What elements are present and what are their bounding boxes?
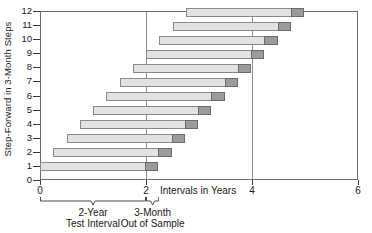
y-tick-label-3: 3	[4, 133, 32, 143]
bar-step-4	[80, 120, 199, 129]
x-tick-label-2: 2	[136, 185, 156, 197]
bar-step-5	[93, 106, 212, 115]
y-tick-1	[33, 166, 40, 167]
plot-area	[40, 11, 358, 180]
y-tick-label-6: 6	[4, 91, 32, 101]
y-tick-8	[33, 67, 40, 68]
bar-step-3	[67, 134, 186, 143]
y-tick-10	[33, 39, 40, 40]
y-tick-2	[33, 152, 40, 153]
y-tick-5	[33, 110, 40, 111]
bar-segment-out-of-sample	[278, 22, 291, 31]
annotation-out-of-sample-line1: 3-Month	[93, 207, 213, 219]
bar-segment-out-of-sample	[251, 50, 264, 59]
y-tick-label-8: 8	[4, 62, 32, 72]
x-tick-label-4: 4	[242, 185, 262, 197]
bar-segment-test-interval	[67, 134, 173, 143]
bar-segment-test-interval	[93, 106, 199, 115]
y-tick-label-0: 0	[4, 175, 32, 185]
bar-segment-out-of-sample	[145, 162, 158, 171]
y-tick-label-11: 11	[4, 20, 32, 30]
y-tick-12	[33, 11, 40, 12]
bar-segment-out-of-sample	[172, 134, 185, 143]
bar-step-11	[173, 22, 292, 31]
bar-step-10	[159, 36, 278, 45]
y-tick-label-5: 5	[4, 105, 32, 115]
bar-step-8	[133, 64, 252, 73]
y-tick-label-2: 2	[4, 147, 32, 157]
bar-step-9	[146, 50, 265, 59]
y-tick-label-12: 12	[4, 6, 32, 16]
bar-segment-test-interval	[173, 22, 279, 31]
bar-step-6	[106, 92, 225, 101]
y-tick-0	[33, 180, 40, 181]
y-tick-3	[33, 138, 40, 139]
step-forward-chart: Step-Forward in 3-Month Steps 0123456789…	[0, 0, 372, 233]
y-tick-label-10: 10	[4, 34, 32, 44]
y-tick-7	[33, 81, 40, 82]
y-tick-label-9: 9	[4, 48, 32, 58]
bar-segment-out-of-sample	[238, 64, 251, 73]
bar-segment-test-interval	[40, 162, 146, 171]
bar-segment-out-of-sample	[198, 106, 211, 115]
brace-test-interval	[40, 197, 146, 206]
y-tick-11	[33, 25, 40, 26]
y-tick-label-4: 4	[4, 119, 32, 129]
bar-segment-out-of-sample	[264, 36, 277, 45]
bar-segment-test-interval	[186, 8, 292, 17]
bar-segment-test-interval	[80, 120, 186, 129]
y-tick-label-1: 1	[4, 161, 32, 171]
bar-segment-out-of-sample	[211, 92, 224, 101]
x-axis-title: Intervals in Years	[160, 185, 236, 197]
bar-segment-test-interval	[106, 92, 212, 101]
y-tick-label-7: 7	[4, 76, 32, 86]
bar-step-7	[120, 78, 239, 87]
bar-segment-out-of-sample	[225, 78, 238, 87]
bar-segment-test-interval	[133, 64, 239, 73]
y-tick-4	[33, 124, 40, 125]
y-tick-6	[33, 96, 40, 97]
bar-segment-out-of-sample	[185, 120, 198, 129]
bar-step-12	[186, 8, 305, 17]
bar-step-2	[53, 148, 172, 157]
bar-segment-test-interval	[120, 78, 226, 87]
bar-segment-out-of-sample	[291, 8, 304, 17]
brace-out-of-sample	[146, 197, 159, 206]
bar-segment-out-of-sample	[158, 148, 171, 157]
y-tick-9	[33, 53, 40, 54]
bar-segment-test-interval	[53, 148, 159, 157]
annotation-out-of-sample-line2: Out of Sample	[93, 218, 213, 230]
x-tick-label-6: 6	[348, 185, 368, 197]
x-tick-label-0: 0	[30, 185, 50, 197]
bar-segment-test-interval	[146, 50, 252, 59]
bar-segment-test-interval	[159, 36, 265, 45]
bar-step-1	[40, 162, 159, 171]
